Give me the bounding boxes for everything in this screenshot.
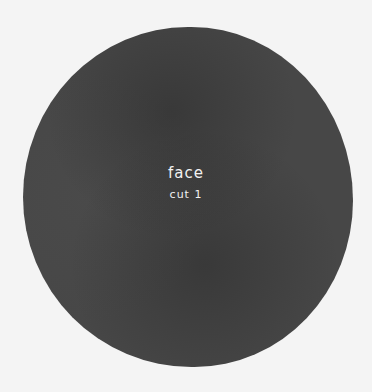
disc-title: face xyxy=(0,164,372,182)
disc-subtitle: cut 1 xyxy=(0,188,372,201)
